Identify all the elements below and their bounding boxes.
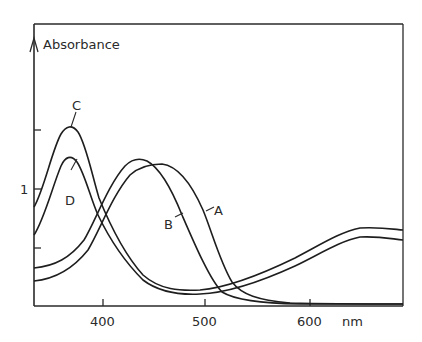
x-axis-unit: nm [342, 314, 363, 329]
curve-d [34, 157, 403, 294]
curve-label-c: C [72, 98, 81, 113]
curve-label-b: B [164, 217, 173, 232]
x-tick-label-500: 500 [192, 314, 217, 329]
y-axis-title: Absorbance [43, 37, 120, 52]
curve-label-d: D [65, 193, 75, 208]
absorbance-chart: Absorbance 1 400 500 600 nm C D B A [0, 0, 422, 342]
curve-label-a: A [214, 203, 223, 218]
x-tick-label-400: 400 [90, 314, 115, 329]
curve-a [34, 164, 403, 304]
x-tick-label-600: 600 [297, 314, 322, 329]
y-tick-label-1: 1 [20, 182, 28, 197]
